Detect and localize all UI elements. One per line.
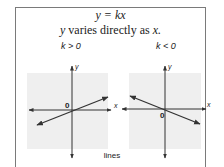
- graph-panel-background: [27, 73, 108, 149]
- graph-negative-slope: x y 0: [122, 63, 211, 158]
- origin-label: 0: [160, 111, 165, 120]
- x-axis-label: x: [206, 101, 211, 108]
- graph-positive-slope: x y 0: [27, 63, 118, 158]
- caption-lines: lines: [97, 151, 127, 160]
- y-axis-label: y: [167, 63, 172, 71]
- x-axis-label: x: [113, 102, 118, 109]
- graphs-canvas: x y 0 x y 0: [0, 0, 224, 167]
- y-axis-label: y: [74, 63, 79, 71]
- origin-label: 0: [65, 101, 70, 110]
